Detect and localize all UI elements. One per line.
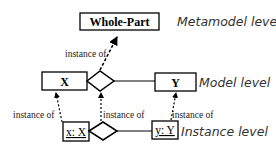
- instance-of-label-x: instance of: [13, 110, 55, 120]
- diagram-canvas: Whole-Part Metamodel level instance of X…: [0, 0, 276, 152]
- aggregation-diamond-instance: [89, 122, 117, 140]
- instance-of-label-y: instance of: [172, 110, 214, 120]
- instance-of-label-diamond: instance of: [103, 110, 145, 120]
- x-instance-label: x: X: [66, 126, 87, 138]
- x-instance-node: x: X: [63, 122, 89, 141]
- whole-part-label: Whole-Part: [90, 15, 150, 29]
- model-level-label: Model level: [199, 75, 271, 90]
- x-class-label: X: [60, 75, 69, 89]
- instance-of-arrow-x: [56, 93, 62, 122]
- x-class-node: X: [42, 72, 87, 90]
- instance-level-label: Instance level: [181, 124, 268, 139]
- y-class-node: Y: [155, 73, 196, 91]
- instance-of-label-meta: instance of: [65, 49, 107, 59]
- aggregation-diamond-model: [87, 71, 114, 91]
- y-instance-label: y: Y: [155, 124, 175, 137]
- y-class-label: Y: [171, 76, 180, 90]
- y-instance-node: y: Y: [152, 121, 178, 139]
- metamodel-level-label: Metamodel level: [177, 14, 276, 29]
- whole-part-node: Whole-Part: [80, 13, 159, 30]
